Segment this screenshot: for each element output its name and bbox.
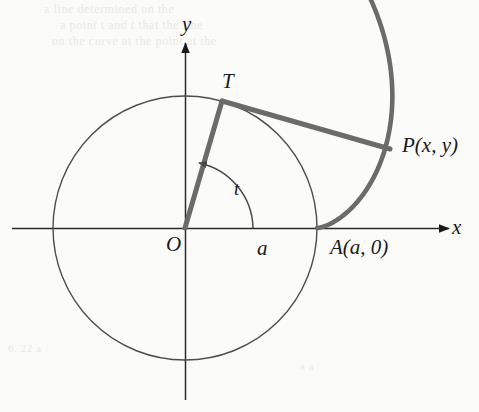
involute-curve xyxy=(317,0,392,228)
radius-a-label: a xyxy=(257,236,268,261)
origin-label: O xyxy=(166,232,181,257)
diagram-canvas xyxy=(0,0,479,412)
string-segment-TP xyxy=(222,101,390,149)
angle-t-label: t xyxy=(234,178,239,200)
x-axis-label: x xyxy=(452,215,461,240)
y-axis-label: y xyxy=(182,12,191,37)
point-p-label: P(x, y) xyxy=(402,133,458,158)
angle-arc-t xyxy=(199,163,253,228)
involute-of-circle-figure: a line determined on the a point t and t… xyxy=(0,0,479,412)
point-a-label: A(a, 0) xyxy=(330,235,388,260)
point-t-label: T xyxy=(222,69,234,94)
